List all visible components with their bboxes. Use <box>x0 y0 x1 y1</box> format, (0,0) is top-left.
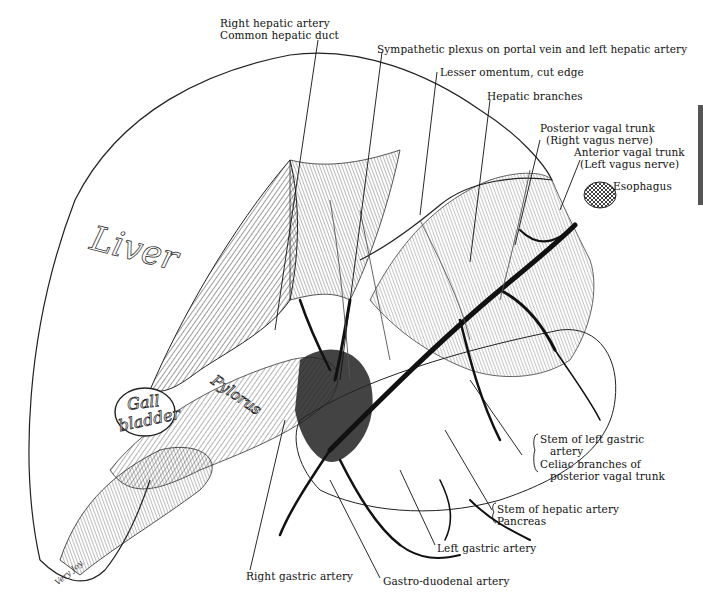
esophagus-shape <box>584 182 616 208</box>
label-sympathetic-plexus: Sympathetic plexus on portal vein and le… <box>377 43 687 55</box>
label-stem-left-gastric-2: artery <box>550 445 583 457</box>
illustration-drawing <box>0 0 703 611</box>
label-lesser-omentum: Lesser omentum, cut edge <box>440 66 584 78</box>
label-hepatic-branches: Hepatic branches <box>487 90 583 102</box>
label-common-hepatic-duct: Common hepatic duct <box>220 29 339 41</box>
label-right-gastric-artery: Right gastric artery <box>246 570 353 582</box>
label-esophagus: Esophagus <box>613 180 672 192</box>
label-right-hepatic-artery: Right hepatic artery <box>220 17 330 29</box>
label-stem-hepatic-artery: Stem of hepatic artery <box>497 503 619 515</box>
label-posterior-vagal-trunk: Posterior vagal trunk <box>540 122 655 134</box>
label-posterior-vagal-trunk-sub: (Right vagus nerve) <box>546 134 653 146</box>
page-edge-bar <box>698 105 703 205</box>
label-celiac-branches-2: posterior vagal trunk <box>550 470 665 482</box>
label-celiac-branches-1: Celiac branches of <box>540 458 641 470</box>
label-left-gastric-artery: Left gastric artery <box>437 542 536 554</box>
label-anterior-vagal-trunk: Anterior vagal trunk <box>574 146 685 158</box>
anatomical-figure: Liver Gall bladder Pylorus Right hepatic… <box>0 0 703 611</box>
label-pancreas: Pancreas <box>497 515 546 527</box>
label-gastro-duodenal-artery: Gastro-duodenal artery <box>383 575 509 587</box>
label-stem-left-gastric-1: Stem of left gastric <box>540 433 644 445</box>
label-anterior-vagal-trunk-sub: (Left vagus nerve) <box>580 158 679 170</box>
